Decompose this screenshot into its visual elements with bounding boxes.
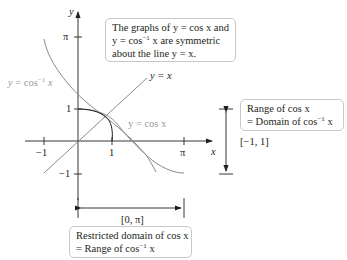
y-tick-1: 1 bbox=[66, 103, 71, 115]
range-callout: Range of cos x = Domain of cos−1 x bbox=[240, 99, 344, 131]
arccos-label-var: x bbox=[48, 77, 53, 88]
cos-label: y = cos x bbox=[128, 118, 166, 130]
domain-interval-label: [0, π] bbox=[121, 214, 144, 226]
domain-line1: Restricted domain of cos x bbox=[76, 229, 185, 242]
arccos-label-sup: −1 bbox=[38, 76, 45, 84]
symmetry-line3: about the line y = x. bbox=[112, 47, 229, 60]
range-bracket bbox=[219, 109, 233, 174]
x-tick-neg1: −1 bbox=[36, 147, 47, 159]
symmetry-line1: The graphs of y = cos x and bbox=[112, 21, 229, 34]
cos-upper-arc bbox=[78, 109, 112, 141]
domain-callout: Restricted domain of cos x = Range of co… bbox=[69, 226, 192, 258]
range-interval-label: [−1, 1] bbox=[240, 136, 269, 148]
range-line1: Range of cos x bbox=[247, 102, 337, 115]
x-axis-label: x bbox=[211, 146, 216, 158]
range-line2: = Domain of cos−1 x bbox=[247, 115, 337, 128]
identity-label: y = x bbox=[150, 70, 172, 82]
arccos-label: yy = cos = cos−1 x bbox=[8, 77, 53, 89]
y-tick-neg1: −1 bbox=[59, 168, 70, 180]
y-axis-label: y bbox=[69, 6, 74, 18]
domain-line2: = Range of cos−1 x bbox=[76, 242, 185, 255]
y-tick-pi: π bbox=[63, 31, 68, 43]
symmetry-callout: The graphs of y = cos x and y = cos−1 x … bbox=[105, 18, 236, 62]
x-tick-1: 1 bbox=[109, 147, 114, 159]
symmetry-line2: y = cos−1 x are symmetric bbox=[112, 34, 229, 47]
x-tick-pi: π bbox=[180, 147, 185, 159]
